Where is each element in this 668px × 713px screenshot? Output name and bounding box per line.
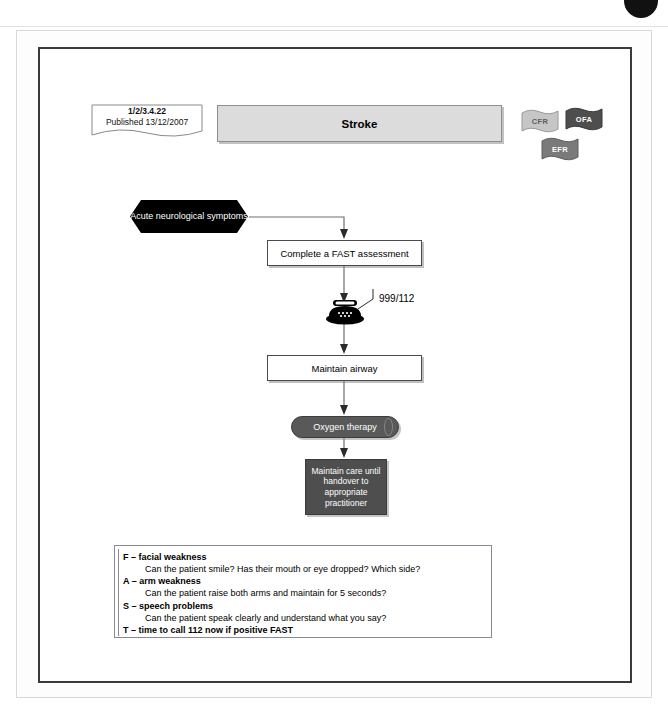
oxygen-therapy-label: Oxygen therapy	[313, 422, 377, 432]
page-title: Stroke	[342, 118, 378, 130]
telephone-icon	[322, 296, 368, 326]
document-title-banner: Stroke	[217, 105, 502, 142]
scope-badge-efr: EFR	[541, 137, 579, 161]
dark-circle-icon[interactable]	[624, 0, 658, 18]
fast-legend-box: F – facial weakness Can the patient smil…	[114, 545, 492, 638]
flow-node-maintain-airway: Maintain airway	[267, 355, 422, 381]
scope-badge-cfr: CFR	[521, 109, 559, 133]
fast-legend-heading-s: S – speech problems	[123, 600, 483, 612]
fast-legend-heading-a: A – arm weakness	[123, 575, 483, 587]
fast-legend-heading-f: F – facial weakness	[123, 551, 483, 563]
fast-legend-detail-a: Can the patient raise both arms and main…	[123, 587, 483, 599]
flow-node-oxygen-therapy: Oxygen therapy	[291, 416, 399, 438]
maintain-airway-label: Maintain airway	[312, 363, 378, 374]
fast-legend-detail-f: Can the patient smile? Has their mouth o…	[123, 563, 483, 575]
emergency-number-label: 999/112	[379, 293, 414, 304]
fast-legend-heading-t: T – time to call 112 now if positive FAS…	[123, 624, 483, 636]
maintain-care-label: Maintain care until handover to appropri…	[309, 466, 383, 509]
page-sheet: 1/2/3.4.22 Published 13/12/2007 Stroke C…	[16, 30, 652, 698]
flow-node-maintain-care: Maintain care until handover to appropri…	[305, 459, 387, 515]
scope-badge-ofa: OFA	[565, 107, 603, 131]
fast-assessment-label: Complete a FAST assessment	[280, 248, 408, 259]
document-reference-flag	[91, 104, 203, 140]
flow-node-acute-neurological-symptoms: Acute neurological symptoms	[129, 199, 249, 234]
viewer-toolbar	[0, 0, 668, 27]
flow-node-fast-assessment: Complete a FAST assessment	[267, 240, 422, 266]
fast-legend-detail-s: Can the patient speak clearly and unders…	[123, 612, 483, 624]
